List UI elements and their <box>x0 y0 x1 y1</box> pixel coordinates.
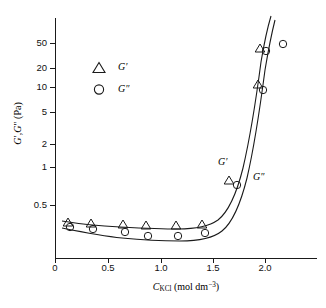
circle-marker-icon <box>92 82 108 98</box>
curve-g-prime <box>62 16 271 229</box>
datapoint-g-double-prime <box>278 39 288 49</box>
datapoint-g-double-prime <box>232 180 242 190</box>
curve-label-g-double-prime: G″ <box>253 171 264 182</box>
datapoint-g-prime <box>141 220 152 230</box>
triangle-marker-icon <box>92 60 108 76</box>
legend-label-g-prime: G′ <box>118 61 127 72</box>
datapoint-g-double-prime <box>173 231 183 241</box>
datapoint-g-double-prime <box>88 224 98 234</box>
curve-g-double-prime <box>62 20 275 241</box>
chart-figure: 50 20 10 5 2 1 0.5 0 0.5 1.0 1.5 2.0 G′,… <box>0 0 326 308</box>
datapoint-g-prime <box>171 220 182 230</box>
legend-label-g-double-prime: G″ <box>118 83 129 94</box>
datapoint-g-double-prime <box>143 231 153 241</box>
datapoint-g-double-prime <box>261 46 271 56</box>
curve-label-g-prime: G′ <box>218 156 227 167</box>
datapoint-g-double-prime <box>258 85 268 95</box>
datapoint-g-double-prime <box>120 227 130 237</box>
datapoint-g-double-prime <box>200 228 210 238</box>
datapoint-g-double-prime <box>65 222 75 232</box>
